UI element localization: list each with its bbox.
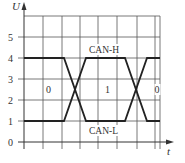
can-h-trace: [24, 58, 160, 121]
y-tick-3: 3: [8, 74, 13, 85]
grid-horizontal: [18, 16, 160, 121]
y-tick-2: 2: [8, 95, 13, 106]
bit-label-left: 0: [46, 84, 51, 95]
bit-label-middle: 1: [105, 84, 110, 95]
can-l-label: CAN-L: [89, 126, 118, 136]
x-axis-label: t: [167, 145, 171, 157]
y-tick-4: 4: [8, 53, 13, 64]
y-axis-arrow-icon: [22, 2, 27, 10]
can-bus-chart: U t 5 4 3 2 1 0 CAN-H CAN-L 0 1 0: [0, 0, 185, 163]
can-l-trace: [24, 58, 160, 121]
y-axis-label: U: [12, 0, 21, 12]
y-tick-5: 5: [8, 32, 13, 43]
can-h-label: CAN-H: [89, 45, 119, 55]
y-tick-1: 1: [8, 116, 13, 127]
bit-label-right: 0: [155, 84, 160, 95]
y-tick-0: 0: [8, 137, 13, 148]
x-axis-arrow-icon: [166, 140, 174, 145]
